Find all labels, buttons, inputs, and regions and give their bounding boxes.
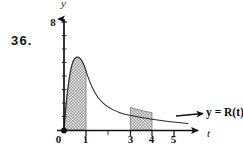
x-tick-label-1: 1	[81, 134, 90, 145]
x-tick-label-4: 4	[147, 134, 156, 145]
x-tick-label-3: 3	[126, 134, 135, 145]
x-tick-label-0: 0	[54, 134, 63, 145]
origin-dot	[61, 128, 67, 134]
x-tick-label-5: 5	[169, 134, 178, 145]
curve-equation-label: y = R(t)	[206, 107, 243, 119]
y-tick-label-8: 8	[48, 17, 58, 28]
x-axis-label: t	[207, 128, 210, 139]
y-axis-label: y	[61, 0, 66, 9]
figure-container: 36.	[0, 0, 243, 149]
curve-label-arrow	[176, 114, 203, 117]
